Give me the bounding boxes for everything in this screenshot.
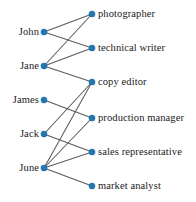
graph-node-photographer bbox=[89, 11, 95, 17]
graph-node-john bbox=[41, 29, 47, 35]
node-label-production-manager: production manager bbox=[98, 113, 184, 124]
graph-node-sales-representative bbox=[89, 149, 95, 155]
node-label-sales-representative: sales representative bbox=[98, 147, 182, 158]
node-label-jack: Jack bbox=[20, 129, 39, 140]
node-label-market-analyst: market analyst bbox=[98, 181, 161, 192]
graph-node-jack bbox=[41, 131, 47, 137]
graph-node-technical-writer bbox=[89, 45, 95, 51]
graph-edge bbox=[44, 66, 92, 82]
graph-node-jane bbox=[41, 63, 47, 69]
node-label-jane: Jane bbox=[20, 61, 39, 72]
node-label-june: June bbox=[19, 163, 39, 174]
graph-node-production-manager bbox=[89, 115, 95, 121]
edges-group bbox=[44, 14, 92, 186]
node-label-photographer: photographer bbox=[98, 9, 155, 20]
node-label-technical-writer: technical writer bbox=[98, 43, 165, 54]
graph-edge bbox=[44, 168, 92, 186]
graph-edge bbox=[44, 100, 92, 118]
graph-edge bbox=[44, 14, 92, 32]
node-label-john: John bbox=[19, 27, 39, 38]
graph-node-market-analyst bbox=[89, 183, 95, 189]
node-label-copy-editor: copy editor bbox=[98, 77, 147, 88]
graph-node-june bbox=[41, 165, 47, 171]
node-label-james: James bbox=[13, 95, 39, 106]
graph-node-copy-editor bbox=[89, 79, 95, 85]
graph-edge bbox=[44, 14, 92, 66]
bipartite-graph-figure: JohnJaneJamesJackJunephotographertechnic… bbox=[0, 0, 196, 202]
graph-node-james bbox=[41, 97, 47, 103]
graph-edge bbox=[44, 48, 92, 66]
